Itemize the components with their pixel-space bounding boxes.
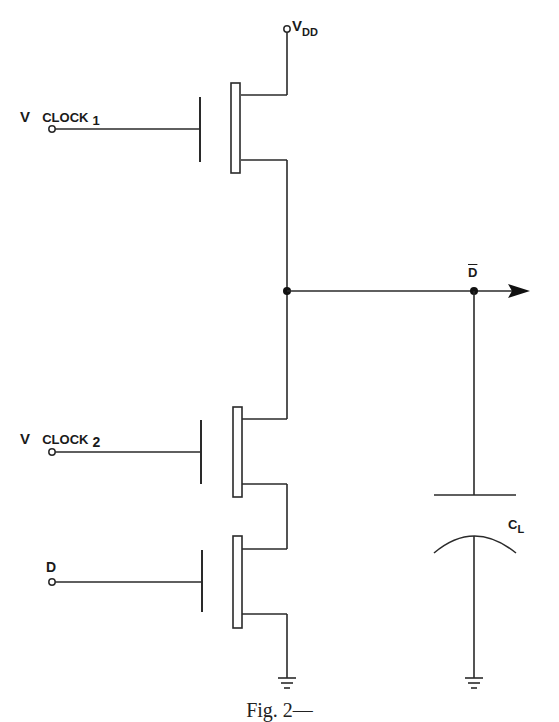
figure-caption: Fig. 2—: [0, 699, 559, 722]
output-node: [283, 284, 530, 298]
clock1-label-index: 1: [93, 113, 100, 128]
ground-icon: [465, 678, 483, 688]
clock1-label: V CLOCK 1: [20, 108, 100, 125]
d-input-label-text: D: [46, 559, 56, 575]
transistor-data: [202, 536, 287, 678]
vdd-terminal: [241, 26, 290, 95]
clock2-label-v: V: [20, 430, 30, 447]
load-capacitor: [434, 291, 516, 678]
d-bar-output-label: D: [468, 265, 477, 280]
transistor-clock2: [201, 407, 287, 549]
clock2-label-index: 2: [93, 434, 101, 450]
vdd-label-main: V: [292, 17, 302, 34]
d-input: [49, 579, 202, 585]
clock1-label-name: CLOCK: [42, 110, 88, 125]
transistor-clock1: [200, 83, 287, 173]
clock1-input: [49, 126, 200, 132]
cl-label-main: C: [508, 517, 517, 532]
vdd-label: VDD: [292, 17, 318, 34]
clock2-label-name: CLOCK: [42, 432, 88, 447]
vdd-label-sub: DD: [302, 26, 318, 38]
d-bar-label-text: D: [468, 265, 477, 280]
d-input-label: D: [46, 559, 56, 575]
cl-label: CL: [508, 517, 524, 532]
clock1-label-v: V: [20, 108, 30, 125]
cl-label-sub: L: [517, 523, 524, 535]
ground-icon: [278, 678, 296, 688]
clock2-label: V CLOCK 2: [20, 430, 100, 447]
clock2-input: [49, 449, 201, 455]
